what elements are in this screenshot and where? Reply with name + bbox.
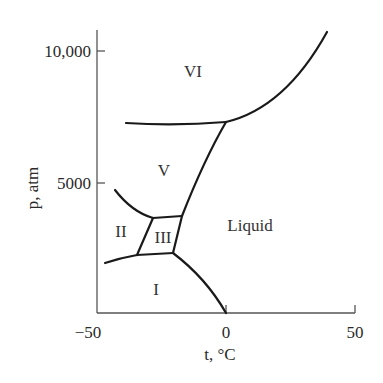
axes: [97, 30, 355, 313]
x-tick-label-0: 0: [222, 323, 231, 342]
region-label-v: V: [158, 161, 171, 180]
boundary-v-liquid: [182, 122, 226, 216]
region-label-vi: VI: [184, 62, 202, 81]
x-tick-label-50: 50: [347, 323, 364, 342]
boundary-vi-v: [126, 122, 226, 124]
region-label-liquid: Liquid: [227, 216, 273, 235]
boundary-vi-liquid: [226, 32, 327, 122]
y-axis-title: p, atm: [23, 167, 42, 210]
region-label-i: I: [153, 280, 159, 299]
boundary-ii-iii: [137, 218, 153, 255]
x-axis-title: t, °C: [204, 345, 235, 364]
x-tick-label-neg50: −50: [75, 323, 102, 342]
region-label-iii: III: [155, 228, 172, 247]
boundary-ii-v: [115, 190, 153, 218]
boundary-i-liquid: [173, 253, 226, 313]
boundary-i-ii: [105, 255, 137, 263]
y-tick-label-5000: 5000: [57, 174, 91, 193]
y-tick-label-10000: 10,000: [44, 42, 91, 61]
boundary-iii-v: [153, 216, 182, 218]
phase-diagram: 10,000 5000 −50 0 50 t, °C p, atm VI V I…: [0, 0, 383, 383]
phase-boundaries: [105, 32, 327, 313]
boundary-iii-liquid: [173, 216, 182, 253]
boundary-i-iii: [137, 253, 173, 255]
region-label-ii: II: [115, 222, 127, 241]
